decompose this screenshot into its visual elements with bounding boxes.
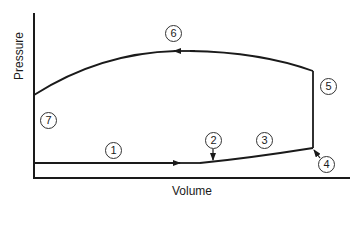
path-segment-3 bbox=[200, 148, 313, 163]
marker-5: 5 bbox=[320, 78, 337, 95]
path-segment-6a bbox=[190, 51, 313, 71]
marker-2: 2 bbox=[205, 132, 222, 149]
marker-4-arrow bbox=[314, 150, 320, 158]
y-axis-label: Pressure bbox=[12, 32, 26, 80]
marker-4: 4 bbox=[318, 156, 335, 173]
marker-3: 3 bbox=[256, 132, 273, 149]
path-segment-6b bbox=[34, 51, 176, 95]
marker-1: 1 bbox=[105, 142, 122, 159]
marker-6: 6 bbox=[165, 25, 182, 42]
marker-7: 7 bbox=[40, 112, 57, 129]
x-axis-label: Volume bbox=[172, 184, 212, 198]
